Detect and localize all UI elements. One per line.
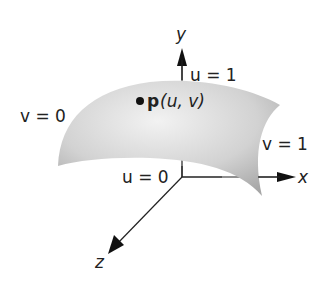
point-marker — [136, 97, 144, 105]
y-axis-label: y — [175, 24, 187, 44]
u1-label: u = 1 — [190, 65, 237, 85]
v1-label: v = 1 — [262, 134, 308, 154]
z-arrow-icon — [108, 235, 124, 254]
surface-diagram: p (u, v) y x z u = 1 u = 0 v = 0 v = 1 — [0, 0, 326, 284]
v0-label: v = 0 — [20, 106, 66, 126]
point-name: p — [147, 91, 159, 111]
point-args: (u, v) — [160, 91, 205, 111]
x-axis-label: x — [297, 167, 309, 187]
z-axis — [117, 177, 182, 244]
u0-label: u = 0 — [122, 167, 169, 187]
z-axis-label: z — [94, 252, 105, 272]
